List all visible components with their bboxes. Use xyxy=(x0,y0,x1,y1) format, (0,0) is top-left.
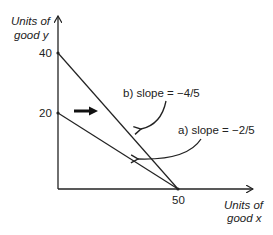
slope-label-b: b) slope = −4/5 xyxy=(123,87,200,99)
budget-line-diagram: Units of good y Units of good x 40 20 50… xyxy=(0,0,273,235)
pointer-arrow-a-icon xyxy=(138,139,201,159)
point-x50 xyxy=(176,187,179,190)
y-tick-20: 20 xyxy=(39,107,52,119)
y-axis-label-line1: Units of xyxy=(11,15,52,27)
budget-line-b xyxy=(58,53,178,189)
point-y20 xyxy=(56,111,59,114)
x-axis-label-line1: Units of xyxy=(224,199,265,211)
y-axis-label-line2: good y xyxy=(14,29,50,41)
y-tick-40: 40 xyxy=(39,47,52,59)
budget-line-a xyxy=(58,113,178,189)
x-axis-label-line2: good x xyxy=(227,212,263,224)
slope-label-a: a) slope = −2/5 xyxy=(178,124,255,136)
point-y40 xyxy=(56,51,59,54)
shift-right-arrow-icon xyxy=(74,107,98,116)
x-tick-50: 50 xyxy=(172,194,185,206)
pointer-arrow-b-icon xyxy=(141,101,166,129)
